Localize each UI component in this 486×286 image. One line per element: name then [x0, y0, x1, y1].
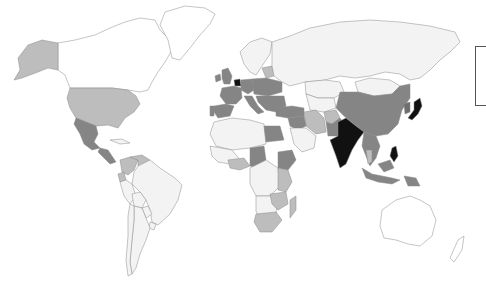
region-philippines[interactable]	[390, 146, 398, 162]
region-australia[interactable]	[380, 196, 436, 246]
region-north-africa[interactable]	[210, 118, 266, 150]
region-korea[interactable]	[404, 102, 410, 114]
region-kazakhstan[interactable]	[305, 80, 344, 98]
region-madagascar[interactable]	[290, 196, 296, 218]
region-central-europe[interactable]	[252, 78, 282, 96]
region-spain[interactable]	[214, 104, 234, 118]
region-egypt[interactable]	[264, 126, 284, 142]
region-benelux[interactable]	[234, 79, 241, 86]
region-ireland[interactable]	[215, 74, 221, 82]
region-turkey[interactable]	[276, 106, 304, 118]
region-saudi-arabia[interactable]	[290, 128, 316, 152]
region-alaska[interactable]	[14, 40, 58, 80]
region-ethiopia[interactable]	[278, 150, 296, 170]
legend-box	[475, 46, 486, 106]
region-kenya-tanzania[interactable]	[278, 168, 292, 192]
region-papua-new-guinea[interactable]	[404, 176, 420, 186]
region-russia[interactable]	[272, 20, 460, 86]
region-central-america[interactable]	[98, 148, 116, 164]
region-thailand[interactable]	[366, 150, 372, 164]
region-united-kingdom[interactable]	[222, 68, 232, 84]
region-france[interactable]	[220, 86, 242, 104]
region-south-africa[interactable]	[254, 212, 282, 232]
region-canada[interactable]	[58, 18, 172, 92]
region-cuba[interactable]	[110, 139, 130, 144]
region-new-zealand[interactable]	[450, 236, 464, 262]
region-portugal[interactable]	[210, 106, 214, 116]
region-ghana-nigeria[interactable]	[228, 158, 250, 170]
